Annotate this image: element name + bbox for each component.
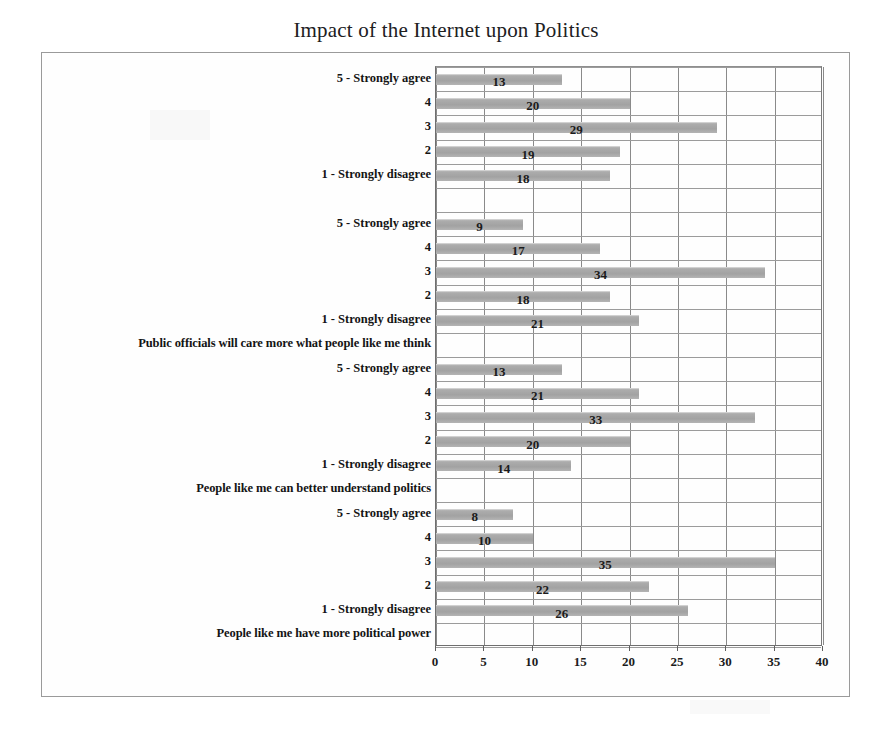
bar-value-label: 18 <box>517 172 530 185</box>
bar-value-label: 19 <box>521 148 534 161</box>
horizontal-gridline <box>436 115 821 116</box>
vertical-gridline <box>775 67 776 645</box>
group-label: People like me have more political power <box>217 627 431 640</box>
category-label: 2 <box>425 434 431 447</box>
horizontal-gridline <box>436 309 821 310</box>
category-label: 4 <box>425 241 431 254</box>
bar-value-label: 34 <box>594 268 607 281</box>
x-tick-label: 5 <box>480 654 487 670</box>
category-label: 2 <box>425 289 431 302</box>
plot-area: 13202919189173418211321332014810352226 <box>435 66 822 646</box>
bar-value-label: 18 <box>517 293 530 306</box>
category-label: 3 <box>425 120 431 133</box>
category-label: 2 <box>425 144 431 157</box>
horizontal-gridline <box>436 236 821 237</box>
horizontal-gridline <box>436 188 821 189</box>
category-label: 3 <box>425 410 431 423</box>
bar-value-label: 35 <box>599 558 612 571</box>
x-tick-mark <box>774 646 775 651</box>
horizontal-gridline <box>436 502 821 503</box>
x-tick-label: 0 <box>432 654 439 670</box>
bar-value-label: 26 <box>555 607 568 620</box>
x-tick-mark <box>629 646 630 651</box>
vertical-gridline <box>823 67 824 645</box>
horizontal-gridline <box>436 478 821 479</box>
chart-title: Impact of the Internet upon Politics <box>0 18 892 43</box>
horizontal-gridline <box>436 405 821 406</box>
category-label: 1 - Strongly disagree <box>321 458 431 471</box>
horizontal-gridline <box>436 526 821 527</box>
horizontal-gridline <box>436 381 821 382</box>
category-label: 4 <box>425 386 431 399</box>
category-label: 3 <box>425 555 431 568</box>
horizontal-gridline <box>436 623 821 624</box>
bar-value-label: 14 <box>497 462 510 475</box>
bar-value-label: 29 <box>570 123 583 136</box>
group-label: People like me can better understand pol… <box>196 482 431 495</box>
scan-artifact <box>690 700 770 714</box>
horizontal-gridline <box>436 67 821 68</box>
bar-value-label: 9 <box>476 220 483 233</box>
bar-value-label: 33 <box>589 413 602 426</box>
category-label: 5 - Strongly agree <box>337 72 431 85</box>
horizontal-gridline <box>436 140 821 141</box>
horizontal-gridline <box>436 357 821 358</box>
category-label: 1 - Strongly disagree <box>321 603 431 616</box>
x-tick-label: 25 <box>670 654 683 670</box>
bar-value-label: 8 <box>471 510 478 523</box>
horizontal-gridline <box>436 164 821 165</box>
y-axis-label-column: 5 - Strongly agree4321 - Strongly disagr… <box>50 66 431 646</box>
horizontal-gridline <box>436 454 821 455</box>
bar-value-label: 10 <box>478 534 491 547</box>
x-tick-mark <box>532 646 533 651</box>
bar-value-label: 13 <box>492 75 505 88</box>
category-label: 5 - Strongly agree <box>337 507 431 520</box>
horizontal-gridline <box>436 91 821 92</box>
category-label: 5 - Strongly agree <box>337 362 431 375</box>
bar-value-label: 21 <box>531 389 544 402</box>
x-axis-ticks: 0510152025303540 <box>435 646 823 652</box>
x-tick-label: 15 <box>574 654 587 670</box>
x-tick-label: 35 <box>767 654 780 670</box>
category-label: 5 - Strongly agree <box>337 217 431 230</box>
chart-figure: Impact of the Internet upon Politics 5 -… <box>0 0 892 733</box>
category-label: 4 <box>425 531 431 544</box>
category-label: 1 - Strongly disagree <box>321 313 431 326</box>
x-tick-mark <box>483 646 484 651</box>
horizontal-gridline <box>436 430 821 431</box>
category-label: 2 <box>425 579 431 592</box>
x-tick-label: 10 <box>525 654 538 670</box>
category-label: 1 - Strongly disagree <box>321 168 431 181</box>
category-label: 3 <box>425 265 431 278</box>
x-tick-mark <box>822 646 823 651</box>
horizontal-gridline <box>436 550 821 551</box>
x-tick-mark <box>677 646 678 651</box>
horizontal-gridline <box>436 260 821 261</box>
horizontal-gridline <box>436 575 821 576</box>
x-tick-label: 20 <box>622 654 635 670</box>
bar-value-label: 20 <box>526 438 539 451</box>
category-label: 4 <box>425 96 431 109</box>
x-tick-label: 30 <box>719 654 732 670</box>
bar-value-label: 17 <box>512 244 525 257</box>
horizontal-gridline <box>436 599 821 600</box>
x-tick-label: 40 <box>816 654 829 670</box>
bar-value-label: 22 <box>536 583 549 596</box>
horizontal-gridline <box>436 285 821 286</box>
group-label: Public officials will care more what peo… <box>138 337 431 350</box>
x-tick-mark <box>435 646 436 651</box>
x-tick-mark <box>580 646 581 651</box>
x-tick-mark <box>725 646 726 651</box>
horizontal-gridline <box>436 333 821 334</box>
bar-value-label: 13 <box>492 365 505 378</box>
bar-value-label: 20 <box>526 99 539 112</box>
horizontal-gridline <box>436 212 821 213</box>
bar-value-label: 21 <box>531 317 544 330</box>
